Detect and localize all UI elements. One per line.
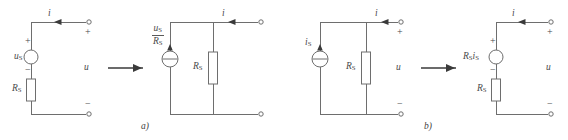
a-left-voltage-label: u <box>84 63 89 73</box>
a-left-current-label: i <box>48 9 51 19</box>
a-right-source-denominator: RS <box>152 35 164 47</box>
panel-b-right-circuit <box>489 19 553 116</box>
panel-b-left-circuit <box>312 19 403 116</box>
b-left-terminal-bottom <box>399 112 403 116</box>
panel-a-left-circuit <box>24 19 91 116</box>
b-right-voltage-label: u <box>546 63 551 73</box>
b-right-source-label: RSiS <box>463 52 479 62</box>
a-left-terminal-bottom <box>87 112 91 116</box>
a-right-source-direction-arrowhead <box>167 44 173 51</box>
b-right-terminal-top <box>549 20 553 24</box>
a-left-terminal-top <box>87 20 91 24</box>
a-left-source-label: uS <box>14 52 23 62</box>
a-right-terminal-top <box>259 20 263 24</box>
a-arrow-head <box>133 64 142 72</box>
a-left-resistor-symbol <box>27 79 36 101</box>
b-left-source-direction-arrowhead <box>317 44 323 51</box>
b-right-resistor-label: RS <box>477 84 487 94</box>
b-left-resistor-symbol <box>362 52 371 84</box>
b-left-resistor-label: RS <box>346 62 356 72</box>
b-right-resistor-symbol <box>492 79 501 101</box>
a-left-source-minus: − <box>25 65 31 75</box>
a-left-source-plus: + <box>25 36 31 46</box>
a-right-current-arrowhead <box>228 19 236 25</box>
b-right-terminal-plus: + <box>547 27 553 37</box>
a-left-terminal-minus: − <box>85 99 91 109</box>
a-right-source-fraction-label: uS RS <box>152 24 164 48</box>
panel-a-right-circuit <box>162 19 263 116</box>
a-left-terminal-plus: + <box>85 27 91 37</box>
b-right-voltage-source-symbol <box>489 50 503 64</box>
b-left-current-label: i <box>375 9 378 19</box>
b-right-terminal-bottom <box>549 112 553 116</box>
a-left-resistor-label: RS <box>12 84 22 94</box>
b-left-terminal-plus: + <box>397 27 403 37</box>
b-left-terminal-minus: − <box>397 99 403 109</box>
a-left-current-arrowhead <box>54 19 62 25</box>
b-right-current-label: i <box>512 9 515 19</box>
caption-b: b) <box>424 122 432 132</box>
a-right-terminal-bottom <box>259 112 263 116</box>
source-transformation-figure: i uS + − RS + − u uS RS RS i iS RS i <box>0 0 568 140</box>
b-right-source-minus: − <box>490 65 496 75</box>
b-left-current-arrowhead <box>381 19 389 25</box>
b-arrow-head <box>446 64 455 72</box>
panel-b-transform-arrow <box>421 64 456 72</box>
a-left-voltage-source-symbol <box>24 50 38 64</box>
b-left-source-label: iS <box>305 38 311 48</box>
panel-a-transform-arrow <box>108 64 143 72</box>
b-right-terminal-minus: − <box>547 99 553 109</box>
caption-a: a) <box>141 122 149 132</box>
a-right-resistor-symbol <box>209 52 218 84</box>
b-left-terminal-top <box>399 20 403 24</box>
a-right-current-label: i <box>222 9 225 19</box>
b-right-current-arrowhead <box>518 19 526 25</box>
a-right-source-numerator: uS <box>152 24 164 35</box>
a-right-resistor-label: RS <box>193 62 203 72</box>
b-right-source-plus: + <box>490 36 496 46</box>
b-left-voltage-label: u <box>396 63 401 73</box>
